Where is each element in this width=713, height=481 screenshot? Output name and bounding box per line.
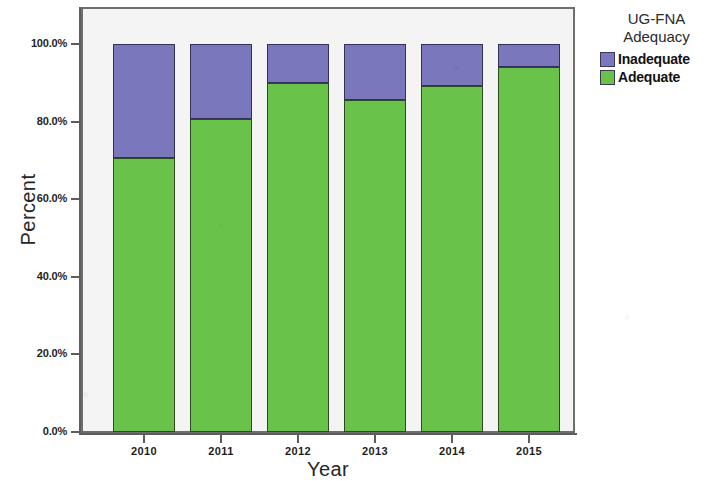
bar-segment-adequate-2014 <box>421 86 483 432</box>
legend-item-label: Inadequate <box>618 51 690 67</box>
legend-item-adequate[interactable]: Adequate <box>600 69 713 85</box>
y-tick-mark <box>71 43 80 45</box>
bar-segment-inadequate-2011 <box>190 44 252 119</box>
bar-segment-inadequate-2014 <box>421 44 483 86</box>
y-tick-mark <box>71 431 80 433</box>
plot-area <box>83 9 573 431</box>
bar-group <box>190 44 252 432</box>
bar-segment-adequate-2011 <box>190 119 252 432</box>
bar-segment-inadequate-2012 <box>267 44 329 83</box>
bar-segment-adequate-2010 <box>113 158 175 432</box>
bar-group <box>421 44 483 432</box>
legend: UG-FNA Adequacy InadequateAdequate <box>600 10 713 85</box>
x-tick-mark <box>220 435 222 443</box>
bar-segment-adequate-2013 <box>344 100 406 432</box>
y-tick-label: 20.0% <box>3 347 67 359</box>
x-tick-label-2013: 2013 <box>340 445 410 457</box>
bar-segment-adequate-2012 <box>267 83 329 432</box>
x-tick-mark <box>297 435 299 443</box>
x-tick-label-2014: 2014 <box>417 445 487 457</box>
y-tick-label: 0.0% <box>3 425 67 437</box>
legend-title: UG-FNA Adequacy <box>600 10 713 46</box>
x-tick-label-2015: 2015 <box>494 445 564 457</box>
bar-group <box>498 44 560 432</box>
bar-group <box>267 44 329 432</box>
bar-group <box>113 44 175 432</box>
bar-group <box>344 44 406 432</box>
legend-entries: InadequateAdequate <box>600 51 713 85</box>
plot-frame <box>81 7 575 433</box>
y-axis-line <box>79 7 81 435</box>
x-tick-label-2010: 2010 <box>109 445 179 457</box>
bar-segment-inadequate-2010 <box>113 44 175 158</box>
x-tick-mark <box>451 435 453 443</box>
y-tick-mark <box>71 276 80 278</box>
x-tick-mark <box>143 435 145 443</box>
legend-item-inadequate[interactable]: Inadequate <box>600 51 713 67</box>
y-tick-mark <box>71 198 80 200</box>
x-axis-title: Year <box>81 458 575 481</box>
legend-swatch-icon <box>600 52 615 67</box>
x-axis-line <box>79 433 577 435</box>
x-tick-label-2011: 2011 <box>186 445 256 457</box>
legend-swatch-icon <box>600 70 615 85</box>
y-tick-label: 100.0% <box>3 37 67 49</box>
x-tick-label-2012: 2012 <box>263 445 333 457</box>
x-tick-mark <box>374 435 376 443</box>
bar-segment-adequate-2015 <box>498 67 560 432</box>
y-tick-mark <box>71 353 80 355</box>
y-tick-mark <box>71 121 80 123</box>
bar-segment-inadequate-2015 <box>498 44 560 67</box>
x-tick-mark <box>528 435 530 443</box>
y-axis-title: Percent <box>17 120 40 300</box>
bar-segment-inadequate-2013 <box>344 44 406 100</box>
legend-item-label: Adequate <box>618 69 680 85</box>
